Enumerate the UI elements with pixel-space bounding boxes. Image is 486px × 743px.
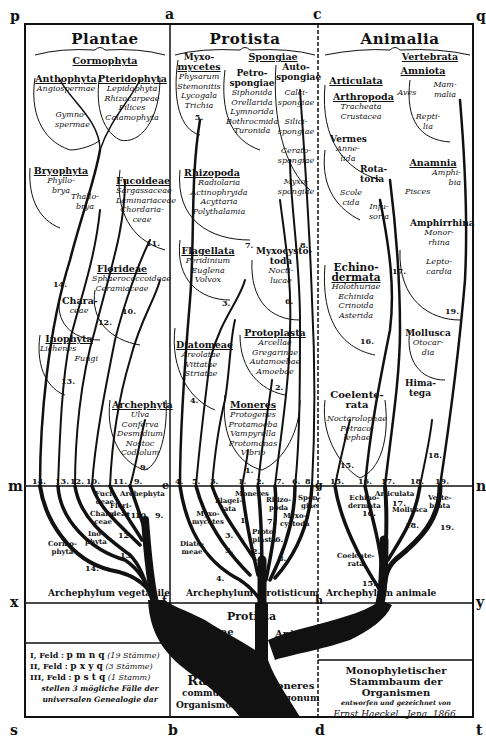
stem-number-19: 19. [445,306,459,316]
lower-number: 1. [240,515,248,525]
legend-row-2: II, Feld : p x y q (3 Stämme) [30,661,170,672]
archephylum-protisticum-2: protisticum [260,588,319,598]
lower-label-spongiae: Spon-giae [298,494,321,510]
lower-number: 7. [267,516,275,526]
lower-number: 12. [118,530,132,540]
baseline-number: 7. [276,476,284,486]
kingdom-title-protista: Protista [195,30,295,48]
stem-number-6: 6. [285,296,293,306]
corner-label-b: b [168,722,178,738]
baseline-number: 9. [134,476,142,486]
group-protoplasta: Protoplasta Arcellae Gregarinae Autamoeb… [244,328,306,376]
legend-row-3: III, Feld : p s t q (1 Stamm) [30,672,170,683]
trunk-label-protista: Protista [227,610,276,623]
corner-label-t: t [476,722,482,738]
root-label: Radix communis Organismorum [176,675,240,711]
baseline-number: 19. [435,476,449,486]
baseline-number: 1. [238,476,246,486]
group-amniota: Amniota [398,66,448,76]
stem-number-4: 4. [190,395,198,405]
group-reptilia: Repti- lia [415,112,441,131]
group-vermes: Vermes Anne- lida [330,134,366,163]
lower-label-inophyta: Ino-phyta [85,530,107,546]
group-cormophyta: Cormophyta [60,56,150,66]
legend-row-1: I, Feld : p m n q (19 Stämme) [30,650,170,661]
stem-number-11: 11. [146,238,160,248]
group-rhizopoda: Rhizopoda Radiolaria Actinophryida Acytt… [184,168,254,216]
baseline-number: 14. [32,476,46,486]
group-autospongiae: Auto- spongiae Calci- spongiae Silici- s… [276,62,316,196]
baseline-number: 11. [113,476,127,486]
baseline-number: 3. [210,476,218,486]
stem-number-7: 7. [245,240,253,250]
stem-number-8: 8. [300,240,308,250]
group-himatega: Hima- tega [405,378,435,398]
corner-label-p: p [10,8,20,24]
moneres-autogonum-label: Moneres autogonum [262,680,318,704]
lower-number: 17. [392,498,406,508]
corner-label-y: y [476,594,484,610]
baseline-number: 16. [358,476,372,486]
group-coelenterata: Coelente- rata Noctarolophae Petraco- le… [324,390,390,443]
stem-number-18: 18. [428,450,442,460]
title-line-3: entworfen und gezeichnet von [320,698,472,709]
baseline-number: 17. [381,476,395,486]
group-diatomeae: Diatomeae Areolatae Vittatae Striatae [176,340,226,379]
stem-number-16: 16. [360,336,374,346]
group-thallobrya: Thallo- brya [66,192,104,211]
stem-number-12: 12. [98,317,112,327]
lower-number: 4. [216,573,224,583]
lower-label-protoplasta: Proto-plasta [252,528,276,544]
group-articulata: Articulata [326,76,386,86]
lower-number: 5. [225,545,233,555]
corner-label-s: s [10,722,18,738]
corner-label-d: d [315,722,325,738]
stem-number-17: 17. [392,266,406,276]
group-petrospongiae: Petro- spongiae Siphonida Orellarida Lym… [226,68,278,136]
archephylum-animale-1: Archephylum [326,588,393,598]
group-anamnia: Anamnia Amphi- bia Pisces [405,158,461,197]
corner-label-n: n [476,478,486,494]
lower-label-rhizopoda: Rhizo-poda [266,496,291,512]
lower-number: 19. [440,522,454,532]
lower-number: 8. [278,553,286,563]
lower-label-cormophyta: Cormo-phyta [48,540,77,556]
group-myxomycetes: Myxo- mycetes Physarum Stemonitis Lycoga… [174,52,224,122]
baseline-number: 15. [330,476,344,486]
lower-number: 3. [225,530,233,540]
lower-number: 10. [135,510,149,520]
baseline-number: 10. [86,476,100,486]
title-block: Monophyletischer Stammbaum der Organisme… [320,665,472,720]
lower-number: 6. [275,534,283,544]
group-spongiae: Spongiae [238,52,308,62]
title-line-4: Ernst Haeckel . Jena, 1866. [320,709,472,720]
group-myxocystoda: Myxocysto- toda Nocti- lucae [256,246,306,285]
baseline-number: 13. [55,476,69,486]
baseline-number: 4. [175,476,183,486]
lower-number: 15. [362,578,376,588]
group-florideae: Florideae Sphaerococcoideae Ceramiaceae [92,264,152,293]
group-anthophyta: Anthophyta Angiospermae [32,74,100,94]
lower-label-diatomeae: Diato-meae [180,540,204,556]
group-mammalia: Mam- malia [430,80,460,99]
group-arthropoda: Arthropoda Tracheata Crustacea [333,92,389,121]
stem-number-3: 3. [222,298,230,308]
group-mollusca: Mollusca Otocar- dia [400,328,456,357]
baseline-number: 8. [305,476,313,486]
group-archephyta: Archephyta Ulva Conferva Desmidium Nosto… [112,400,168,458]
baseline-number: 12. [70,476,84,486]
group-bryophyta: Bryophyta Phyllo- brya [32,166,90,195]
stem-number-1: 1. [245,465,253,475]
group-characeae: Chara- ceae [62,296,96,316]
stem-number-13: 13. [61,376,75,386]
lower-label-archephyta: Archephyta [120,490,165,498]
stem-number-14: 14. [53,279,67,289]
group-fucoideae: Fucoideae Sargassaceae Laminariaceae Cho… [116,176,168,224]
corner-label-c: c [313,6,322,22]
lower-number: 2. [252,546,260,556]
title-line-2: Stammbaum der Organismen [320,676,472,698]
group-pteridophyta: Pteridophyta Lepidophyta Rhizocarpeae Fi… [98,74,166,122]
group-inophyta: Inophyta Lichenes Fungi [40,334,98,363]
lower-label-myxocystoda: Myxo-cystoda [280,512,310,528]
group-flagellata: Flagellata Peridinium Euglena Volvox [180,246,236,285]
